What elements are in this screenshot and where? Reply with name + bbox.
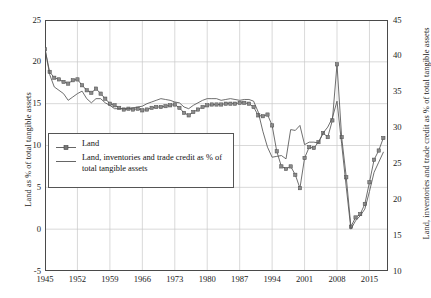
y-tick-right-20: 20 (393, 194, 419, 204)
y-tick-right-30: 30 (393, 122, 419, 132)
y-tick-right-25: 25 (393, 158, 419, 168)
x-tick-2015: 2015 (349, 274, 389, 284)
legend-marker-line-icon (55, 139, 77, 150)
y-tick-right-10: 10 (393, 266, 419, 276)
y-tick-left-5: 5 (15, 182, 41, 192)
y-tick-left-10: 10 (15, 140, 41, 150)
y-tick-right-15: 15 (393, 230, 419, 240)
y-tick-right-40: 40 (393, 50, 419, 60)
chart-legend: Land Land, inventories and trade credit … (48, 133, 234, 188)
legend-label-land-inventories: Land, inventories and trade credit as % … (82, 153, 227, 174)
y-tick-left-20: 20 (15, 56, 41, 66)
legend-item-land: Land (55, 139, 227, 150)
chart-page: Land as % of total tangible assets Land,… (0, 0, 431, 298)
y-axis-right-title: Land, inventories and trade credit as % … (422, 60, 431, 240)
y-tick-right-35: 35 (393, 86, 419, 96)
legend-label-land: Land (82, 139, 99, 150)
y-tick-left-15: 15 (15, 98, 41, 108)
y-tick-left-0: 0 (15, 224, 41, 234)
y-tick-left-25: 25 (15, 15, 41, 25)
legend-line-icon (55, 153, 77, 164)
y-tick-right-45: 45 (393, 15, 419, 25)
legend-item-land-inventories: Land, inventories and trade credit as % … (55, 153, 227, 174)
